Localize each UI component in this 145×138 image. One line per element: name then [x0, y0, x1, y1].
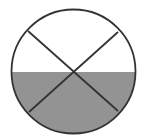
circle-figure	[0, 0, 145, 138]
fraction-circle-diagram	[0, 0, 145, 138]
